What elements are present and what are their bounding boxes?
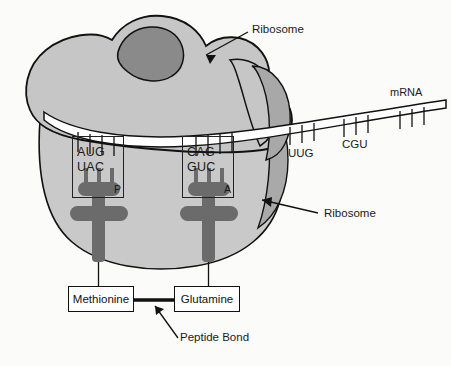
a-site-anticodon: GUC xyxy=(187,160,216,174)
glutamine-label: Glutamine xyxy=(181,293,233,305)
a-site-label: A xyxy=(224,183,231,195)
mrna-codon-label-uug: UUG xyxy=(288,147,314,159)
p-site-anticodon: UAC xyxy=(77,160,104,174)
ribosome-top-label: Ribosome xyxy=(252,23,304,35)
p-site-codon: AUG xyxy=(77,145,105,159)
amino-acid-box-glutamine: Glutamine xyxy=(174,286,240,312)
ribosome-bottom-label: Ribosome xyxy=(324,207,376,219)
p-site-label: P xyxy=(114,183,121,195)
peptide-bond-label: Peptide Bond xyxy=(180,331,249,343)
mrna-codon-label-cgu: CGU xyxy=(342,138,368,150)
a-site-codon: CAG xyxy=(187,145,215,159)
methionine-label: Methionine xyxy=(73,293,129,305)
translation-diagram: AUG UAC P CAG GUC A UUG CGU Methionine G… xyxy=(0,0,451,366)
mrna-label: mRNA xyxy=(390,86,422,98)
amino-acid-box-methionine: Methionine xyxy=(68,286,134,312)
